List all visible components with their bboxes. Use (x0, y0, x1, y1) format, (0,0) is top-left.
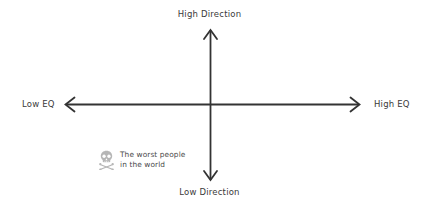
axis-label-high-eq: High EQ (374, 99, 410, 109)
annotation-worst-people-text: The worst people in the world (120, 150, 185, 169)
axes-graphic (0, 0, 427, 208)
axis-label-low-eq: Low EQ (22, 99, 55, 109)
annotation-worst-people: The worst people in the world (98, 150, 185, 170)
axis-label-low-direction-text: Low Direction (179, 187, 239, 197)
axis-label-low-direction: Low Direction (0, 187, 427, 197)
axis-label-high-direction-text: High Direction (178, 9, 241, 19)
skull-and-crossbones-icon (98, 150, 115, 170)
quadrant-diagram: High Direction Low Direction Low EQ High… (0, 0, 427, 208)
axis-label-high-direction: High Direction (0, 9, 427, 19)
